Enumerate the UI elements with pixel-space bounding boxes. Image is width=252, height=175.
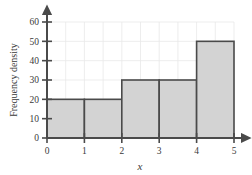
bar-0-1 xyxy=(47,99,84,138)
bar-3-4 xyxy=(159,80,196,138)
x-tick-label: 0 xyxy=(45,146,50,156)
x-tick-label: 1 xyxy=(82,146,87,156)
x-axis-tick-labels: 0 1 2 3 4 5 xyxy=(45,146,237,156)
bar-1-2 xyxy=(84,99,121,138)
x-tick-label: 3 xyxy=(157,146,162,156)
x-tick-label: 4 xyxy=(194,146,199,156)
x-tick-label: 2 xyxy=(119,146,124,156)
y-tick-label: 50 xyxy=(30,37,40,47)
y-tick-label: 0 xyxy=(34,133,39,143)
y-tick-label: 10 xyxy=(30,114,40,124)
y-axis-tick-labels: 0 10 20 30 40 50 60 xyxy=(30,17,40,143)
x-tick-label: 5 xyxy=(232,146,237,156)
bar-4-5 xyxy=(197,41,234,138)
y-tick-label: 30 xyxy=(30,75,40,85)
y-tick-label: 20 xyxy=(30,95,40,105)
x-axis-title: x xyxy=(137,160,143,172)
bar-2-3 xyxy=(122,80,159,138)
y-tick-label: 60 xyxy=(30,17,40,27)
frequency-density-histogram: 0 10 20 30 40 50 60 0 1 2 3 4 5 Frequenc… xyxy=(0,0,252,175)
y-axis-title: Frequency density xyxy=(8,43,19,117)
y-tick-label: 40 xyxy=(30,56,40,66)
histogram-figure: 0 10 20 30 40 50 60 0 1 2 3 4 5 Frequenc… xyxy=(0,0,252,175)
